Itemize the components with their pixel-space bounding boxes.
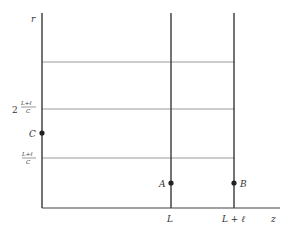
x-tick-L: L bbox=[166, 214, 173, 224]
point-C-label: C bbox=[29, 129, 36, 139]
point-B bbox=[231, 180, 236, 185]
y-tick-2-numerator: L+ℓ bbox=[20, 100, 32, 106]
y-tick-prefix-2: 2 bbox=[12, 105, 18, 115]
y-tick-2-denominator: C bbox=[26, 108, 31, 114]
point-C bbox=[39, 130, 44, 135]
z-axis-label: z bbox=[270, 214, 276, 224]
r-axis-label: r bbox=[31, 14, 36, 24]
y-tick-1-numerator: L+ℓ bbox=[21, 151, 33, 157]
y-tick-1-denominator: C bbox=[26, 159, 31, 165]
point-A-label: A bbox=[158, 179, 166, 189]
spacetime-diagram: r z 2 L+ℓ C L+ℓ C L L + ℓ C A B bbox=[0, 0, 296, 233]
point-A bbox=[168, 180, 173, 185]
point-B-label: B bbox=[239, 179, 247, 189]
x-tick-L-plus-l: L + ℓ bbox=[221, 214, 245, 224]
